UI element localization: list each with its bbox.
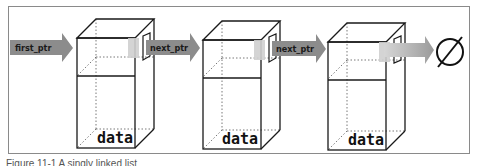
node-2-data-label: data xyxy=(222,130,258,148)
node-3: data xyxy=(328,23,405,150)
linked-list-diagram: first_ptr data next_ptr xyxy=(0,0,483,166)
first-ptr-label: first_ptr xyxy=(15,43,51,53)
node-1: data xyxy=(77,19,154,148)
node-2: data xyxy=(203,21,280,149)
node-3-data-label: data xyxy=(348,131,384,149)
null-arrow xyxy=(384,36,434,64)
node-1-data-label: data xyxy=(97,129,133,147)
null-symbol-icon xyxy=(437,37,463,67)
figure-caption: Figure 11-1 A singly linked list xyxy=(6,158,137,166)
next-ptr-label-1: next_ptr xyxy=(150,43,188,53)
first-ptr-arrow: first_ptr xyxy=(10,33,73,62)
next-ptr-label-2: next_ptr xyxy=(276,44,314,54)
